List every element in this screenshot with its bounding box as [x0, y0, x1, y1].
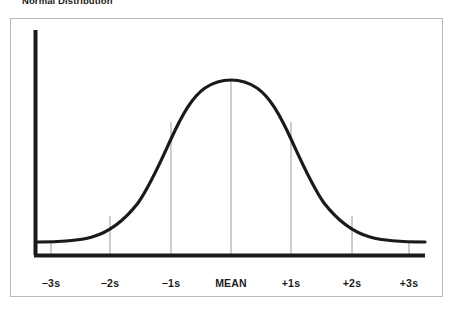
normal-distribution-chart: Normal Distribution −3s −2s −1s MEAN +1s…	[0, 0, 454, 314]
tick-label--2s: −2s	[101, 277, 119, 289]
tick-gridlines	[51, 80, 409, 255]
chart-axes	[34, 30, 425, 256]
tick-label-+2s: +2s	[343, 277, 361, 289]
tick-label--1s: −1s	[162, 277, 180, 289]
tick-label-+3s: +3s	[400, 277, 418, 289]
tick-label-mean: MEAN	[215, 277, 247, 289]
plot-canvas	[0, 0, 454, 314]
tick-label--3s: −3s	[42, 277, 60, 289]
tick-label-+1s: +1s	[282, 277, 300, 289]
